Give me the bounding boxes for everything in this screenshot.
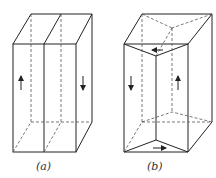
figure-diagram bbox=[0, 0, 216, 178]
panel-a-prism bbox=[13, 14, 92, 152]
panel-a-label: (a) bbox=[36, 160, 51, 173]
panel-b-label: (b) bbox=[147, 160, 163, 173]
panel-b-prism bbox=[124, 14, 212, 152]
